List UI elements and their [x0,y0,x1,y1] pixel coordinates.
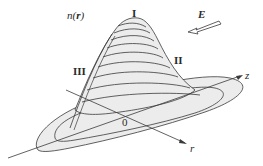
field-arrow-icon [188,21,221,34]
function-label: n(r) [67,10,84,21]
function-prefix: n( [67,9,76,21]
function-suffix: ) [80,9,84,21]
r-axis-label: r [190,143,194,154]
refractive-index-profile-diagram [0,0,263,166]
r-axis-arrowhead [179,139,187,144]
region-label-right: II [174,55,183,66]
region-label-left: III [73,66,86,77]
field-label: E [198,9,205,20]
region-label-top: I [132,8,136,19]
origin-label: 0 [122,117,128,128]
peak-surface [75,18,195,115]
z-axis-arrowhead [236,75,243,80]
z-axis-label: z [245,70,249,81]
